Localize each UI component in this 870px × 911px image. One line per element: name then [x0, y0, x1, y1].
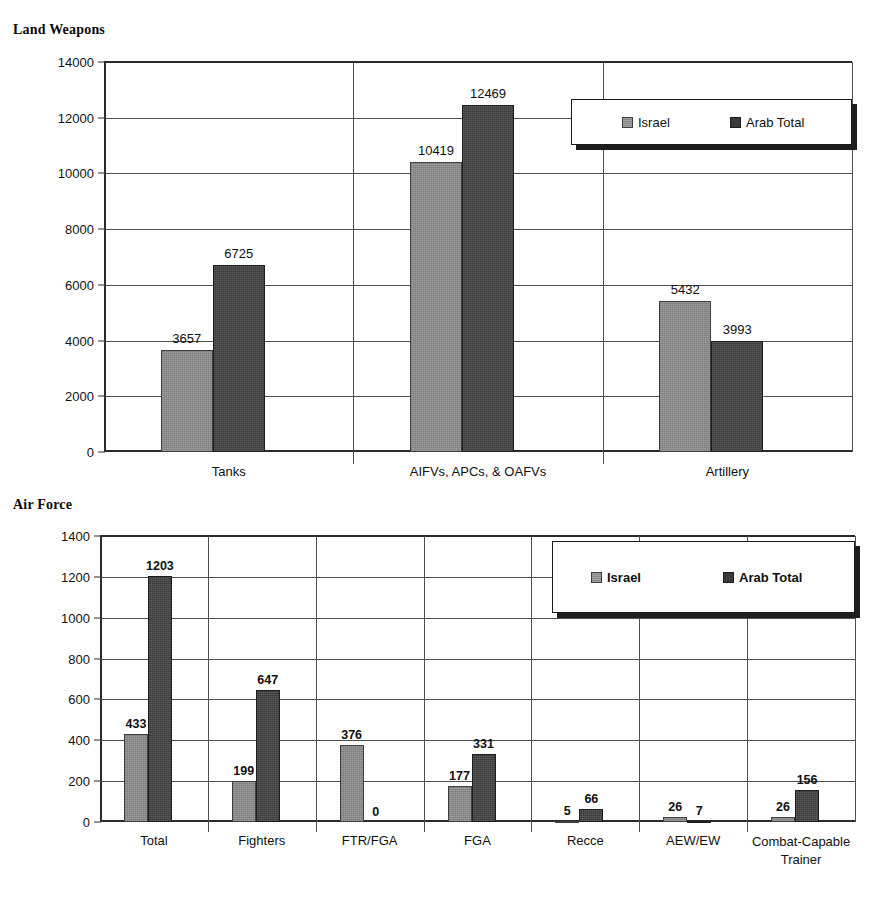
x-axis-category-label: Combat-Capable Trainer — [747, 833, 855, 868]
legend-item-arab-total[interactable]: Arab Total — [723, 570, 802, 585]
x-axis-category-label: FTR/FGA — [316, 833, 424, 848]
bar-value-label: 433 — [125, 717, 146, 731]
x-axis-category-label: Recce — [531, 833, 639, 848]
bar — [579, 809, 603, 822]
legend-item-israel[interactable]: Israel — [591, 570, 641, 585]
y-axis-tick-mark — [94, 740, 101, 741]
bar-value-label: 1203 — [146, 559, 174, 573]
bar — [148, 576, 172, 822]
y-axis-tick-label: 1000 — [12, 610, 90, 625]
gridline-vertical — [316, 536, 317, 832]
bar-value-label: 0 — [372, 805, 379, 819]
bar-value-label: 199 — [233, 764, 254, 778]
bar — [340, 745, 364, 822]
bar-value-label: 66 — [584, 792, 598, 806]
legend-swatch-arab-total-icon — [730, 117, 741, 128]
legend-item-israel[interactable]: Israel — [622, 115, 670, 130]
x-axis-category-label: Fighters — [208, 833, 316, 848]
bar-value-label: 376 — [341, 728, 362, 742]
y-axis-tick-mark — [94, 576, 101, 577]
plot-right-border — [855, 536, 856, 822]
legend-swatch-israel-icon — [591, 572, 602, 583]
y-axis-tick-label: 1400 — [12, 529, 90, 544]
y-axis-tick-label: 0 — [12, 815, 90, 830]
bar — [555, 821, 579, 823]
y-axis-tick-mark — [94, 536, 101, 537]
legend-swatch-israel-icon — [622, 117, 633, 128]
air-force-legend[interactable]: Israel Arab Total — [552, 541, 855, 613]
bar — [124, 734, 148, 822]
bar — [687, 821, 711, 823]
y-axis-tick-mark — [94, 658, 101, 659]
bar-value-label: 7 — [696, 804, 703, 818]
gridline-vertical — [424, 536, 425, 832]
bar-value-label: 26 — [668, 800, 682, 814]
x-axis-category-label: FGA — [424, 833, 532, 848]
y-axis-tick-label: 200 — [12, 774, 90, 789]
y-axis-tick-label: 800 — [12, 651, 90, 666]
bar-value-label: 156 — [797, 773, 818, 787]
bar — [795, 790, 819, 822]
y-axis-tick-mark — [94, 699, 101, 700]
gridline-horizontal — [100, 618, 855, 619]
bar-value-label: 331 — [473, 737, 494, 751]
gridline-vertical — [208, 536, 209, 832]
bar — [663, 817, 687, 822]
gridline-vertical — [531, 536, 532, 832]
bar-value-label: 26 — [776, 800, 790, 814]
x-axis-category-label: Total — [100, 833, 208, 848]
gridline-horizontal — [100, 535, 855, 537]
legend-label-israel: Israel — [638, 115, 670, 130]
land-weapons-legend[interactable]: Israel Arab Total — [571, 99, 852, 145]
y-axis-tick-label: 400 — [12, 733, 90, 748]
y-axis-tick-mark — [94, 617, 101, 618]
gridline-horizontal — [100, 699, 855, 700]
legend-label-israel: Israel — [607, 570, 641, 585]
bar — [472, 754, 496, 822]
bar-value-label: 5 — [564, 804, 571, 818]
y-axis-tick-label: 1200 — [12, 569, 90, 584]
y-axis-tick-mark — [94, 781, 101, 782]
bar-value-label: 647 — [257, 673, 278, 687]
legend-label-arab-total: Arab Total — [739, 570, 802, 585]
y-axis-tick-label: 600 — [12, 692, 90, 707]
bar — [232, 781, 256, 822]
bar — [448, 786, 472, 822]
bar — [256, 690, 280, 822]
legend-label-arab-total: Arab Total — [746, 115, 804, 130]
bar-value-label: 177 — [449, 769, 470, 783]
bar — [771, 817, 795, 822]
y-axis-tick-mark — [94, 822, 101, 823]
gridline-horizontal — [100, 659, 855, 660]
legend-swatch-arab-total-icon — [723, 572, 734, 583]
legend-item-arab-total[interactable]: Arab Total — [730, 115, 804, 130]
x-axis-category-label: AEW/EW — [639, 833, 747, 848]
